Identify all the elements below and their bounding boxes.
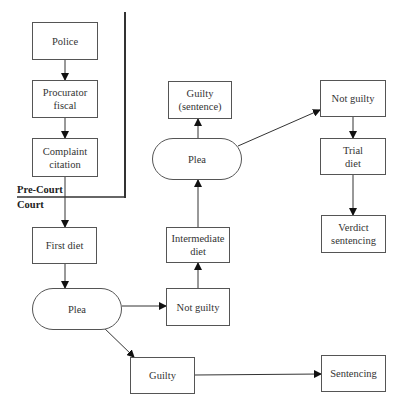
flow-connectors bbox=[0, 0, 405, 411]
arrow-plea-to-guilty bbox=[101, 325, 134, 357]
pre-court-label: Pre-Court bbox=[17, 184, 63, 195]
node-police: Police bbox=[32, 22, 98, 60]
court-label: Court bbox=[17, 199, 44, 210]
arrow-guilty-to-sentencing bbox=[195, 374, 321, 375]
node-sentencing: Sentencing bbox=[321, 355, 386, 392]
node-first-diet: First diet bbox=[32, 227, 97, 264]
node-verdict-sentencing: Verdict sentencing bbox=[321, 215, 386, 253]
node-not-guilty-first: Not guilty bbox=[166, 288, 230, 326]
node-guilty-first: Guilty bbox=[130, 357, 195, 394]
node-procurator-fiscal: Procurator fiscal bbox=[32, 80, 98, 118]
node-complaint-citation: Complaint citation bbox=[32, 138, 98, 177]
node-guilty-sentence: Guilty (sentence) bbox=[168, 81, 232, 119]
node-intermediate-diet: Intermediate diet bbox=[166, 227, 230, 263]
node-plea-first: Plea bbox=[32, 288, 122, 330]
node-trial-diet: Trial diet bbox=[320, 138, 386, 175]
node-plea-second: Plea bbox=[152, 138, 242, 180]
node-not-guilty-second: Not guilty bbox=[320, 80, 386, 117]
arrow-plea-to-not-guilty-second bbox=[238, 110, 320, 146]
